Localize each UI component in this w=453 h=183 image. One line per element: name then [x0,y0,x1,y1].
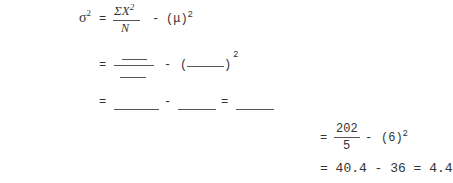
mu-squared: (μ)2 [166,12,193,26]
blank-variance[interactable] [236,109,274,110]
equals-sign: = [99,12,106,26]
minus-sign: - [164,95,171,109]
fraction-bar [334,137,360,138]
minus-sign: - [152,12,159,26]
variance-result: = 40.4 - 36 = 4.4 [320,161,453,176]
fraction-bar [114,65,154,66]
blank-sum-over-n[interactable] [114,109,159,110]
equals-sign: = [221,95,228,109]
minus-sign: - [164,58,171,72]
blank-denominator[interactable] [120,77,146,78]
open-paren: ( [180,58,187,72]
exponent: 2 [233,50,238,60]
minus-sign: - [365,131,372,145]
blank-mean[interactable] [187,66,224,67]
equals-sign: = [99,58,106,72]
equals-sign: = [320,131,327,145]
blank-numerator[interactable] [122,59,147,60]
close-paren: ) [224,58,231,72]
mean-squared: (6)2 [381,131,408,145]
n-value: 5 [343,139,350,153]
sum-value: 202 [336,122,358,136]
equals-sign: = [99,95,106,109]
n-denominator: N [121,21,129,36]
sigma-symbol: σ2 [79,10,91,26]
sum-x-squared: ΣX2 [114,3,134,19]
blank-mean-squared[interactable] [178,109,216,110]
